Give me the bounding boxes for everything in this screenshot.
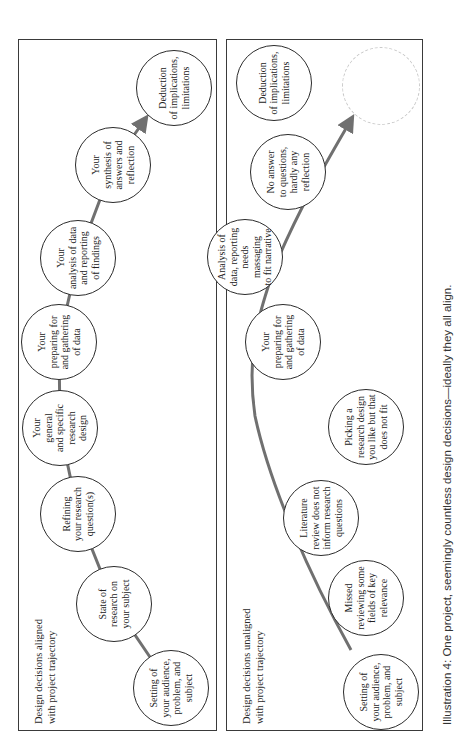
node-unaligned-analysis: Analysis of data, reporting needs massag… [207,219,283,295]
node-unaligned-setting: Setting of your audience, problem, and s… [343,654,419,730]
node-unaligned-preparing-data: Your preparing for and gathering of data [245,304,321,380]
node-aligned-refining-questions: Refining your research question(s) [40,476,116,552]
node-aligned-research-design: Your general and specific research desig… [22,390,98,466]
node-unaligned-picking-design: Picking a research design you like but t… [328,389,404,465]
node-aligned-preparing-data: Your preparing for and gathering of data [21,304,97,380]
figure-caption: Illustration 4: One project, seemingly c… [441,285,453,725]
node-unaligned-missed-reviewing: Missed reviewing some fields of key rele… [328,560,404,636]
node-aligned-setting: Setting of your audience, problem, and s… [133,650,209,726]
node-unaligned-empty-target [342,47,420,125]
panel-aligned-label: Design decisions aligned with project tr… [33,619,58,724]
panel-unaligned-label: Design decisions unaligned with project … [241,609,266,724]
node-unaligned-literature-review: Literature review does not inform resear… [283,480,359,556]
node-aligned-deduction: Deduction of implications, limitations [136,50,212,126]
diagram-stage: Design decisions aligned with project tr… [0,0,460,746]
node-aligned-synthesis: Your synthesis of answers and reflection [75,127,151,203]
node-aligned-analysis: Your analysis of data and reporting of f… [40,220,116,296]
node-aligned-state-of-research: State of research on your subject [76,566,152,642]
node-unaligned-deduction: Deduction of implications, limitations [236,45,312,121]
node-unaligned-no-answer: No answer to questions, hardly any refle… [250,134,326,210]
